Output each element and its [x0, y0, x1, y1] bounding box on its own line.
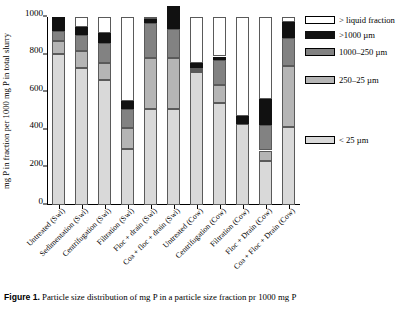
bar-segment [52, 31, 66, 41]
bar-segment [190, 68, 204, 70]
bar-segment [190, 70, 204, 72]
bar-stack[interactable] [75, 17, 89, 205]
y-tick-mark [43, 204, 47, 205]
bar-segment [167, 6, 181, 30]
legend-label: 1000–250 µm [339, 46, 387, 58]
bar-segment [121, 101, 135, 109]
bar-segment [282, 38, 296, 66]
bar-segment [213, 17, 227, 56]
caption-label: Figure 1. [4, 292, 40, 302]
y-tick-mark [43, 53, 47, 54]
bar-segment [144, 58, 158, 109]
figure-caption: Figure 1. Particle size distribution of … [4, 292, 414, 303]
caption-text: Particle size distribution of mg P in a … [42, 292, 296, 302]
bar-segment [167, 58, 181, 109]
bar-segment [75, 51, 89, 68]
bar-segment [52, 54, 66, 205]
bar-segment [236, 116, 250, 124]
legend-swatch [305, 16, 335, 24]
bar-segment [190, 63, 204, 68]
legend-label: 250–25 µm [339, 74, 379, 86]
legend-label: > liquid fraction [339, 14, 395, 26]
bar-segment [144, 19, 158, 23]
legend-label: < 25 µm [339, 134, 368, 146]
bar-segment [75, 17, 89, 27]
legend-label: >1000 µm [339, 29, 375, 41]
legend-item[interactable]: > liquid fraction [305, 14, 417, 26]
y-tick-mark [43, 166, 47, 167]
y-tick-mark [43, 91, 47, 92]
bar-segment [98, 63, 112, 80]
bar-segment [282, 17, 296, 22]
legend-swatch [305, 48, 335, 56]
bar-segment [167, 29, 181, 58]
y-axis-label: mg P in fraction per 1000 mg P in total … [0, 17, 13, 205]
legend-swatch [305, 76, 335, 84]
bar-segment [282, 66, 296, 127]
bar-segment [213, 85, 227, 103]
bar-segment [52, 17, 66, 31]
legend-item[interactable]: 250–25 µm [305, 74, 417, 86]
legend-swatch [305, 31, 335, 39]
bar-segment [121, 17, 135, 101]
bar-segment [75, 27, 89, 35]
bar-segment [259, 99, 273, 125]
bar-segment [213, 60, 227, 84]
x-axis-labels: Untreated (Swi)Sedimentation (Swi)Centri… [47, 207, 417, 287]
bar-segment [144, 17, 158, 19]
bar-segment [98, 17, 112, 33]
y-tick-mark [43, 128, 47, 129]
bar-segment [259, 125, 273, 150]
bar-segment [52, 41, 66, 53]
legend-item[interactable]: < 25 µm [305, 134, 417, 146]
bar-segment [259, 17, 273, 99]
bar-segment [75, 35, 89, 51]
bar-stack[interactable] [52, 17, 66, 205]
bar-segment [98, 33, 112, 43]
bar-segment [144, 23, 158, 59]
bar-segment [121, 109, 135, 128]
bar-segment [190, 17, 204, 63]
bar-segment [213, 57, 227, 61]
legend-swatch [305, 136, 335, 144]
legend-item[interactable]: >1000 µm [305, 29, 417, 41]
bar-segment [282, 22, 296, 38]
bar-segment [98, 43, 112, 63]
figure-container: mg P in fraction per 1000 mg P in total … [0, 0, 417, 309]
legend-item[interactable]: 1000–250 µm [305, 46, 417, 58]
bar-segment [121, 128, 135, 149]
y-tick-mark [43, 16, 47, 17]
bar-segment [236, 17, 250, 116]
